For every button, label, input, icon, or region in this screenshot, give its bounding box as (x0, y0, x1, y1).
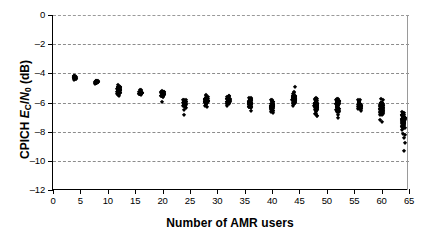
x-axis-tick (272, 189, 273, 194)
y-axis-tick (48, 132, 53, 133)
x-axis-tick (245, 189, 246, 194)
x-axis-tick (299, 189, 300, 194)
x-axis-tick (53, 189, 54, 194)
y-axis-title-n: N (18, 92, 32, 101)
x-axis-tick-label: 20 (157, 196, 167, 206)
y-axis-tick-label: 0 (40, 10, 45, 20)
x-axis-tick (327, 189, 328, 194)
y-axis-title-e-subscript: C (23, 104, 33, 110)
y-axis-tick-label: –2 (35, 39, 45, 49)
x-axis-tick (190, 189, 191, 194)
y-axis-title-n-subscript: 0 (23, 87, 33, 92)
x-axis-tick-label: 25 (185, 196, 195, 206)
y-axis-title-prefix: CPICH (18, 118, 32, 159)
y-axis-tick (48, 161, 53, 162)
x-axis-tick-label: 60 (377, 196, 387, 206)
x-axis-tick (217, 189, 218, 194)
y-axis-tick (48, 44, 53, 45)
y-axis-tick-label: –6 (35, 98, 45, 108)
x-axis-tick-label: 30 (212, 196, 222, 206)
gridline (53, 132, 409, 133)
scatter-point (182, 113, 187, 118)
chart-figure: 0–2–4–6–8–10–12 051015202530354045505560… (0, 0, 427, 241)
x-axis-tick-label: 55 (349, 196, 359, 206)
x-axis-tick (135, 189, 136, 194)
x-axis-tick (80, 189, 81, 194)
x-axis-tick (163, 189, 164, 194)
x-axis-tick-label: 65 (404, 196, 414, 206)
scatter-point (401, 148, 406, 153)
x-axis-tick-label: 15 (130, 196, 140, 206)
y-axis-tick (48, 73, 53, 74)
gridline (53, 73, 409, 74)
plot-area: 0–2–4–6–8–10–12 051015202530354045505560… (52, 15, 408, 190)
x-axis-tick-label: 10 (103, 196, 113, 206)
x-axis-tick-label: 40 (267, 196, 277, 206)
x-axis-tick (382, 189, 383, 194)
gridline (53, 161, 409, 162)
y-axis-title-slash: / (18, 101, 32, 104)
y-axis-title-e: E (18, 110, 32, 118)
y-axis-tick-label: –8 (35, 127, 45, 137)
x-axis-tick-label: 50 (322, 196, 332, 206)
scatter-point (336, 116, 341, 121)
y-axis-title-units: (dB) (18, 60, 32, 87)
x-axis-tick-label: 0 (50, 196, 55, 206)
y-axis-tick (48, 103, 53, 104)
x-axis-tick-label: 5 (78, 196, 83, 206)
gridline (53, 15, 409, 16)
scatter-point (293, 85, 298, 90)
x-axis-tick-label: 45 (294, 196, 304, 206)
scatter-point (379, 119, 384, 124)
y-axis-tick (48, 15, 53, 16)
y-axis-tick-label: –4 (35, 69, 45, 79)
x-axis-tick (409, 189, 410, 194)
plot-right-border (407, 15, 408, 190)
x-axis-tick-label: 35 (240, 196, 250, 206)
x-axis-tick (108, 189, 109, 194)
x-axis-title: Number of AMR users (52, 216, 408, 230)
y-axis-title: CPICH EC/N0 (dB) (18, 22, 33, 197)
gridline (53, 44, 409, 45)
x-axis-tick (354, 189, 355, 194)
